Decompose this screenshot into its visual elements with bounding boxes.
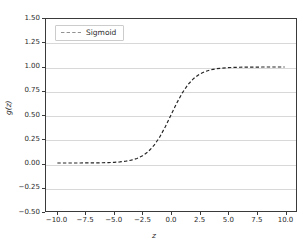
y-tick-mark [42, 212, 45, 213]
x-tick-mark [171, 212, 172, 215]
legend-line-sample-icon [61, 32, 81, 33]
x-tick-mark [57, 212, 58, 215]
x-tick-mark [228, 212, 229, 215]
series-line-sigmoid [57, 67, 284, 163]
x-tick-mark [286, 212, 287, 215]
legend-entry-label: Sigmoid [86, 29, 116, 37]
y-tick-label: 0.25 [0, 136, 40, 143]
y-tick-label: −0.50 [0, 209, 40, 216]
chart-legend: Sigmoid [55, 25, 124, 41]
x-tick-label: 10.0 [266, 217, 306, 224]
x-tick-mark [85, 212, 86, 215]
sigmoid-chart-figure: 1.501.251.000.750.500.250.00−0.25−0.50 −… [0, 0, 308, 249]
x-tick-mark [200, 212, 201, 215]
y-tick-label: 1.50 [0, 15, 40, 22]
y-tick-label: 1.00 [0, 63, 40, 70]
y-tick-label: 0.75 [0, 87, 40, 94]
y-axis-label: g(z) [4, 100, 13, 115]
y-tick-label: 0.00 [0, 160, 40, 167]
x-tick-mark [257, 212, 258, 215]
x-axis-label: z [0, 231, 308, 240]
series-layer [46, 19, 296, 211]
x-tick-mark [142, 212, 143, 215]
y-tick-label: 1.25 [0, 39, 40, 46]
x-tick-mark [114, 212, 115, 215]
y-tick-label: −0.25 [0, 184, 40, 191]
plot-area: Sigmoid [45, 18, 297, 212]
